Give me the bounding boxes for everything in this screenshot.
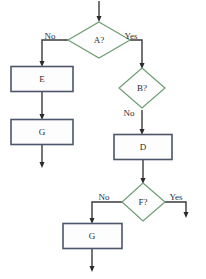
node-decision-b[interactable]: B? bbox=[119, 68, 165, 108]
node-label-f: F? bbox=[139, 197, 148, 207]
edge-label-a-yes: Yes bbox=[124, 31, 138, 41]
flowchart-svg: A? E G B? D bbox=[0, 0, 206, 279]
edge-a-yes-to-b bbox=[130, 40, 142, 66]
edge-label-layer: No Yes No No Yes bbox=[45, 31, 184, 202]
flowchart-canvas: A? E G B? D bbox=[0, 0, 206, 279]
node-process-g2[interactable]: G bbox=[63, 224, 122, 249]
node-label-e: E bbox=[39, 74, 45, 84]
node-label-d: D bbox=[140, 142, 147, 152]
node-decision-a[interactable]: A? bbox=[68, 22, 130, 58]
node-process-g1[interactable]: G bbox=[11, 120, 73, 145]
edge-label-a-no: No bbox=[45, 31, 56, 41]
edge-label-b-no: No bbox=[124, 108, 135, 118]
edge-label-f-yes: Yes bbox=[169, 192, 183, 202]
node-process-d[interactable]: D bbox=[114, 135, 172, 160]
edge-f-yes-to-end bbox=[165, 202, 186, 215]
edge-label-f-no: No bbox=[99, 192, 110, 202]
node-label-a: A? bbox=[94, 35, 105, 45]
edge-a-no-to-e bbox=[42, 40, 68, 64]
node-process-e[interactable]: E bbox=[11, 67, 73, 92]
edge-f-no-to-g2 bbox=[92, 202, 122, 221]
node-decision-f[interactable]: F? bbox=[122, 183, 165, 221]
node-label-b: B? bbox=[137, 83, 147, 93]
node-label-g1: G bbox=[39, 127, 46, 137]
node-label-g2: G bbox=[89, 231, 96, 241]
